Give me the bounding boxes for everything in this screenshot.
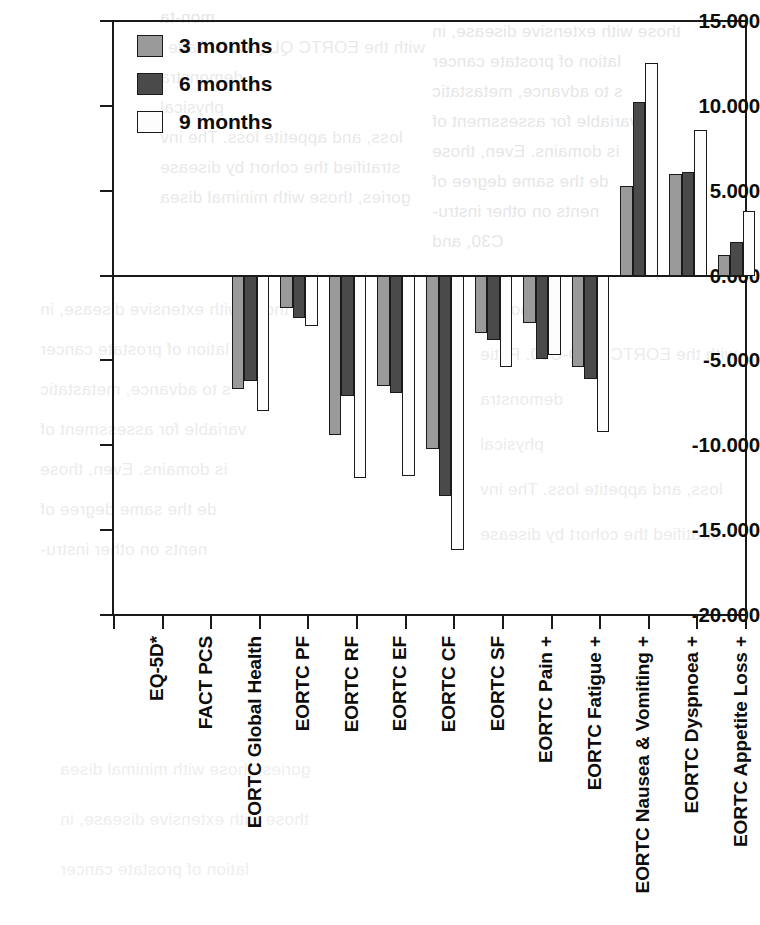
bar-3-months-EORTC-EF — [475, 276, 488, 334]
bar-chart: 15.00010.0005.0000.000-5.000-10.000-15.0… — [0, 0, 760, 925]
x-tick-mark — [210, 614, 212, 629]
bar-3-months-EQ-5D- — [232, 276, 245, 390]
bar-3-months-EORTC-PF — [377, 276, 390, 386]
bar-3-months-EORTC-Pain- — [620, 186, 633, 276]
bar-9-months-EORTC-Nausea-Vomiting- — [743, 211, 756, 275]
legend-label: 9 months — [179, 110, 272, 134]
legend-label: 6 months — [179, 72, 272, 96]
bar-6-months-EORTC-CF — [536, 276, 549, 359]
y-tick-mark — [100, 614, 114, 616]
x-tick-mark — [551, 614, 553, 629]
x-tick-label: EORTC Nausea & Vomiting + — [632, 636, 654, 893]
y-tick-mark — [100, 444, 114, 446]
y-tick-mark — [100, 359, 114, 361]
x-tick-mark — [113, 614, 115, 629]
bar-3-months-EORTC-Fatigue- — [669, 174, 682, 276]
legend-swatch-icon — [137, 111, 163, 133]
legend-swatch-icon — [137, 35, 163, 57]
bar-9-months-EQ-5D- — [257, 276, 270, 412]
x-tick-label: EORTC Appetite Loss + — [730, 636, 752, 847]
x-tick-label: EORTC RF — [341, 636, 363, 732]
bar-6-months-EQ-5D- — [244, 276, 257, 381]
y-tick-mark — [100, 105, 114, 107]
bar-6-months-EORTC-EF — [487, 276, 500, 340]
bar-6-months-EORTC-Pain- — [633, 102, 646, 275]
x-tick-label: EORTC PF — [292, 636, 314, 731]
bar-9-months-EORTC-Pain- — [645, 63, 658, 275]
x-tick-mark — [648, 614, 650, 629]
x-tick-label: FACT PCS — [195, 636, 217, 729]
x-tick-label: EORTC Pain + — [535, 636, 557, 763]
x-tick-label: EORTC Dyspnoea + — [681, 636, 703, 813]
bar-3-months-EORTC-SF — [572, 276, 585, 368]
bar-3-months-FACT-PCS — [280, 276, 293, 308]
x-tick-label: EORTC SF — [487, 636, 509, 731]
legend-label: 3 months — [179, 34, 272, 58]
y-tick-mark — [100, 275, 114, 277]
chart-legend: 3 months6 months9 months — [137, 27, 272, 141]
bar-9-months-FACT-PCS — [305, 276, 318, 327]
bar-9-months-EORTC-RF — [451, 276, 464, 551]
bar-6-months-EORTC-Nausea-Vomiting- — [730, 242, 743, 276]
bar-6-months-EORTC-Global-Health — [341, 276, 354, 396]
bar-3-months-EORTC-RF — [426, 276, 439, 449]
bar-6-months-EORTC-RF — [439, 276, 452, 497]
bar-9-months-EORTC-EF — [500, 276, 513, 368]
x-tick-label: EORTC EF — [389, 636, 411, 731]
bar-9-months-EORTC-Fatigue- — [694, 130, 707, 276]
bar-3-months-EORTC-Global-Health — [329, 276, 342, 436]
bar-9-months-EORTC-SF — [597, 276, 610, 432]
y-tick-mark — [100, 529, 114, 531]
bar-6-months-EORTC-Fatigue- — [682, 172, 695, 276]
bar-9-months-EORTC-PF — [402, 276, 415, 476]
x-tick-mark — [453, 614, 455, 629]
x-tick-mark — [745, 614, 747, 629]
x-tick-label: EQ-5D* — [146, 636, 168, 701]
bar-6-months-EORTC-PF — [390, 276, 403, 393]
legend-swatch-icon — [137, 73, 163, 95]
x-tick-mark — [162, 614, 164, 629]
x-tick-mark — [696, 614, 698, 629]
x-tick-label: EORTC Global Health — [244, 636, 266, 828]
y-tick-mark — [100, 20, 114, 22]
x-tick-mark — [599, 614, 601, 629]
bar-6-months-EORTC-SF — [584, 276, 597, 380]
y-tick-mark — [100, 190, 114, 192]
x-tick-mark — [259, 614, 261, 629]
x-tick-label: EORTC Fatigue + — [584, 636, 606, 790]
legend-item-6-months: 6 months — [137, 65, 272, 103]
x-tick-mark — [502, 614, 504, 629]
x-tick-mark — [356, 614, 358, 629]
bar-3-months-EORTC-CF — [523, 276, 536, 324]
legend-item-9-months: 9 months — [137, 103, 272, 141]
bar-3-months-EORTC-Nausea-Vomiting- — [718, 255, 731, 275]
bar-6-months-FACT-PCS — [293, 276, 306, 318]
x-tick-label: EORTC CF — [438, 636, 460, 732]
legend-item-3-months: 3 months — [137, 27, 272, 65]
bar-9-months-EORTC-CF — [548, 276, 561, 356]
bar-9-months-EORTC-Global-Health — [354, 276, 367, 478]
x-tick-mark — [405, 614, 407, 629]
x-tick-mark — [307, 614, 309, 629]
